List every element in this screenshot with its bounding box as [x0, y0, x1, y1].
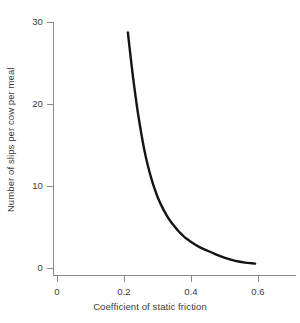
- x-axis-label: Coefficient of static friction: [0, 302, 300, 312]
- data-series-line: [128, 32, 255, 263]
- y-tick-label-10: 10: [24, 181, 43, 191]
- chart-figure: 30 20 10 0 0 0.2 0.4 0.6 Coefficient of …: [0, 0, 300, 323]
- x-tick-label-0point4: 0.4: [184, 287, 198, 297]
- plot-canvas: [0, 0, 300, 323]
- axis-lines: [53, 22, 296, 276]
- x-tick-label-0point6: 0.6: [251, 287, 265, 297]
- x-tick-label-0point2: 0.2: [117, 287, 131, 297]
- y-axis-label: Number of slips per cow per meal: [5, 68, 15, 213]
- x-axis-ticks: [58, 276, 259, 283]
- y-tick-label-30: 30: [24, 17, 43, 27]
- y-axis-label-container: Number of slips per cow per meal: [2, 0, 18, 280]
- y-tick-label-20: 20: [24, 99, 43, 109]
- y-axis-ticks: [47, 23, 54, 269]
- y-tick-label-0: 0: [24, 263, 43, 273]
- x-tick-label-0: 0: [54, 287, 59, 297]
